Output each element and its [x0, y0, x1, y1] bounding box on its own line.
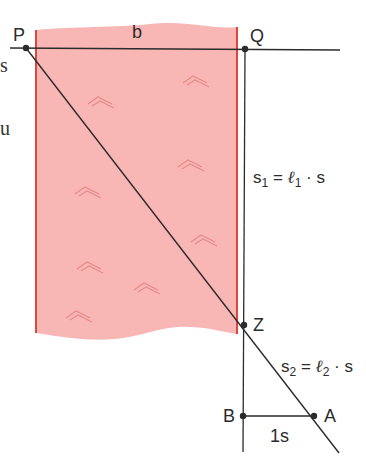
- label-B: B: [223, 407, 235, 425]
- label-P: P: [13, 26, 25, 44]
- ell1-symbol: ℓ: [288, 167, 295, 187]
- label-Q: Q: [250, 27, 264, 45]
- point-Z: [241, 322, 247, 328]
- label-Z: Z: [253, 316, 264, 334]
- label-s1-equation: s1 = ℓ1 · s: [253, 169, 325, 189]
- label-BA-length: 1s: [270, 427, 289, 445]
- ell2-symbol: ℓ: [316, 356, 323, 376]
- s2-rhs: · s: [329, 357, 353, 376]
- label-s2-equation: s2 = ℓ2 · s: [281, 358, 353, 378]
- point-A: [311, 413, 317, 419]
- label-A: A: [324, 407, 336, 425]
- margin-fragment: u: [0, 118, 10, 138]
- river-crossing-diagram: s u P Q Z B A b s1 = ℓ1 · s s2 = ℓ2 · s …: [0, 0, 366, 464]
- label-river-width-b: b: [132, 23, 142, 41]
- s2-equals: =: [296, 357, 315, 376]
- point-B: [240, 413, 246, 419]
- point-P: [23, 45, 29, 51]
- s1-rhs: · s: [301, 168, 325, 187]
- s2-symbol: s: [281, 357, 290, 376]
- diagram-canvas: [0, 0, 366, 464]
- s1-equals: =: [268, 168, 287, 187]
- river-area: [36, 23, 237, 340]
- s1-symbol: s: [253, 168, 262, 187]
- line-QB-vertical: [243, 49, 245, 452]
- margin-fragment: s: [0, 55, 8, 75]
- point-Q: [242, 46, 248, 52]
